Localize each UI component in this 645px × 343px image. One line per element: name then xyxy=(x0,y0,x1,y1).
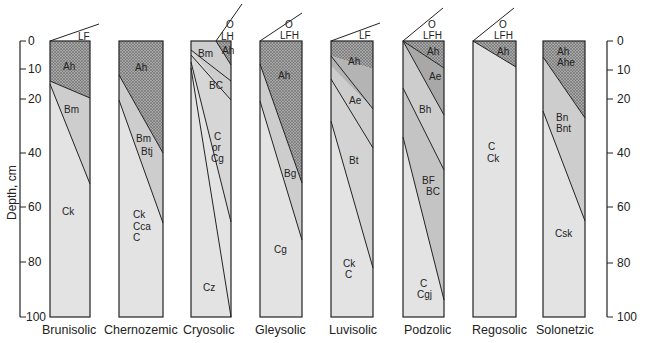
surface-label: O xyxy=(285,19,293,30)
horizon-label: Bn xyxy=(556,112,568,123)
profile-cryosolic: O LH Bm Ah BC C or Cg Cz Cryosolic xyxy=(183,4,242,337)
surface-label: LFH xyxy=(494,30,513,41)
horizon-label: Cgj xyxy=(417,289,432,300)
horizon-label: Ck xyxy=(487,153,500,164)
horizon-label: Ah xyxy=(222,45,234,56)
profile-podzolic: O LFH Ah Ae Bh BF BC C Cgj Podzolic xyxy=(403,8,451,337)
profile-name: Brunisolic xyxy=(42,323,96,337)
tick-label: 80 xyxy=(28,255,42,269)
horizon-label: Ah xyxy=(427,46,439,57)
tick-label: 60 xyxy=(28,200,42,214)
right-depth-axis: 0 10 20 40 60 80 100 xyxy=(607,34,637,324)
surface-label: O xyxy=(226,19,234,30)
tick-label: 60 xyxy=(617,200,631,214)
profile-chernozemic: Ah Bm Btj Ck Cca C Chernozemic xyxy=(104,41,178,337)
tick-label: 100 xyxy=(617,310,637,324)
horizon-label: Cg xyxy=(274,244,287,255)
profile-name: Regosolic xyxy=(472,323,527,337)
tick-label: 0 xyxy=(617,34,624,48)
horizon-label: Ah xyxy=(557,46,569,57)
horizon-label: C xyxy=(488,141,495,152)
tick-label: 20 xyxy=(28,92,42,106)
horizon-label: C xyxy=(345,269,352,280)
tick-label: 10 xyxy=(28,62,42,76)
horizon-label: Cg xyxy=(211,153,224,164)
profile-gleysolic: O LFH Ah Bg Cg Gleysolic xyxy=(255,13,306,337)
horizon-label: Bnt xyxy=(556,123,571,134)
horizon-label: Ck xyxy=(343,258,356,269)
horizon-label: BC xyxy=(209,80,223,91)
profile-name: Chernozemic xyxy=(104,323,178,337)
horizon-label: Ah xyxy=(497,46,509,57)
profile-brunisolic: LF Ah Bm Ck Brunisolic xyxy=(42,24,99,337)
profile-name: Podzolic xyxy=(404,323,451,337)
horizon-label: C xyxy=(420,278,427,289)
horizon-label: LF xyxy=(78,31,90,42)
profile-name: Luvisolic xyxy=(329,323,377,337)
horizon-label: BC xyxy=(426,186,440,197)
horizon-label: Ae xyxy=(349,95,362,106)
profile-solonetzic: Ah Ahe Bn Bnt Csk Solonetzic xyxy=(536,41,594,337)
horizon-label: Bm xyxy=(198,48,213,59)
surface-label: O xyxy=(428,19,436,30)
horizon-label: Ck xyxy=(133,209,146,220)
profile-regosolic: O LFH Ah C Ck Regosolic xyxy=(472,8,527,337)
horizon-label: or xyxy=(212,142,222,153)
tick-label: 80 xyxy=(617,256,631,270)
horizon-label: Ah xyxy=(63,61,75,72)
horizon-label: Bm xyxy=(64,104,79,115)
horizon-label: Ae xyxy=(429,71,442,82)
horizon-label: Bt xyxy=(349,155,359,166)
profile-luvisolic: LF Ah Ae Bt Ck C Luvisolic xyxy=(329,23,380,337)
horizon-label: BF xyxy=(422,175,435,186)
horizon-label: Csk xyxy=(555,228,573,239)
surface-label: O xyxy=(499,19,507,30)
horizon-label: Cz xyxy=(203,282,215,293)
tick-label: 0 xyxy=(28,34,35,48)
tick-label: 40 xyxy=(28,146,42,160)
surface-label: LFH xyxy=(280,30,299,41)
horizon-label: Ahe xyxy=(557,57,575,68)
profile-name: Cryosolic xyxy=(183,323,234,337)
horizon-label: Ah xyxy=(278,70,290,81)
horizon-label: C xyxy=(133,232,140,243)
surface-label: LH xyxy=(221,31,234,42)
horizon-label: Ck xyxy=(62,206,75,217)
profile-name: Gleysolic xyxy=(255,323,306,337)
horizon-label: Bh xyxy=(419,104,431,115)
horizon-label: Bm xyxy=(136,133,151,144)
left-depth-axis: 0 10 20 40 60 80 100 Depth, cm xyxy=(5,34,46,324)
tick-label: 10 xyxy=(617,63,631,77)
tick-label: 20 xyxy=(617,92,631,106)
horizon-label: Ah xyxy=(348,56,360,67)
horizon-label: Bg xyxy=(284,168,296,179)
tick-label: 100 xyxy=(26,310,46,324)
profile-name: Solonetzic xyxy=(536,323,594,337)
axis-label: Depth, cm xyxy=(5,165,19,220)
horizon-label: Cca xyxy=(133,221,151,232)
surface-label: LFH xyxy=(423,30,442,41)
tick-label: 40 xyxy=(617,146,631,160)
surface-label: LF xyxy=(359,30,371,41)
horizon-label: Ah xyxy=(135,62,147,73)
horizon-label: Btj xyxy=(141,146,153,157)
horizon-label: C xyxy=(214,131,221,142)
soil-profiles-diagram: 0 10 20 40 60 80 100 Depth, cm 0 10 20 4… xyxy=(0,0,645,343)
